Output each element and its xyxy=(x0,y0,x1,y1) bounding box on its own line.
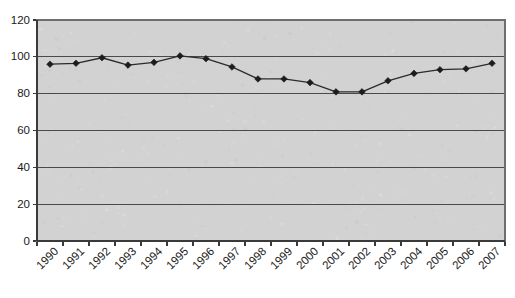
x-tick-label-2007: 2007 xyxy=(476,245,503,272)
x-tick-label-1992: 1992 xyxy=(86,245,113,272)
x-tick-label-2006: 2006 xyxy=(450,245,477,272)
x-tick-label-1991: 1991 xyxy=(60,245,87,272)
y-tick-label-40: 40 xyxy=(17,161,30,173)
y-tick-label-80: 80 xyxy=(17,87,30,99)
x-tick-label-1999: 1999 xyxy=(268,245,295,272)
x-tick-label-2004: 2004 xyxy=(398,245,425,272)
x-tick-label-2005: 2005 xyxy=(424,245,451,272)
x-tick-label-2000: 2000 xyxy=(294,245,321,272)
y-tick-label-100: 100 xyxy=(11,50,30,62)
x-tick-label-2002: 2002 xyxy=(346,245,373,272)
y-axis-tick-labels: 020406080100120 xyxy=(11,14,30,247)
y-tick-label-20: 20 xyxy=(17,198,30,210)
y-tick-label-0: 0 xyxy=(24,235,30,247)
x-tick-label-1996: 1996 xyxy=(190,245,217,272)
x-tick-label-1993: 1993 xyxy=(112,245,139,272)
x-tick-label-2003: 2003 xyxy=(372,245,399,272)
x-axis-tick-marks xyxy=(37,241,505,246)
chart-canvas: 020406080100120 199019911992199319941995… xyxy=(0,0,515,298)
x-tick-label-1994: 1994 xyxy=(138,245,165,272)
y-tick-label-120: 120 xyxy=(11,14,30,26)
x-axis-tick-labels: 1990199119921993199419951996199719981999… xyxy=(34,245,503,272)
y-tick-label-60: 60 xyxy=(17,124,30,136)
x-tick-label-1990: 1990 xyxy=(34,245,61,272)
x-tick-label-1995: 1995 xyxy=(164,245,191,272)
x-tick-label-1998: 1998 xyxy=(242,245,269,272)
x-tick-label-2001: 2001 xyxy=(320,245,347,272)
line-chart: 020406080100120 199019911992199319941995… xyxy=(0,0,515,298)
x-tick-label-1997: 1997 xyxy=(216,245,243,272)
